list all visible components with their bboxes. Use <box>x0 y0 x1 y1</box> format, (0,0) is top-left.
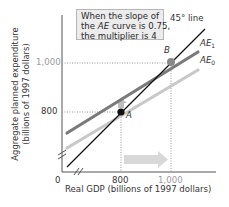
x-tick-1000: 1,000 <box>158 175 183 185</box>
x-tick-800: 800 <box>112 175 128 185</box>
y-tick-800: 800 <box>41 106 57 116</box>
callout-line-3: the multiplier is 4 <box>81 31 163 41</box>
callout-line-1: When the slope of <box>81 11 163 21</box>
y-tick-1000: 1,000 <box>36 57 61 67</box>
ae1-label: AE1 <box>200 38 215 49</box>
line-45-label: 45° line <box>170 13 203 23</box>
x-tick-0: 0 <box>55 175 60 185</box>
point-b <box>167 58 175 66</box>
y-axis-title: Aggregate planned expenditure (billions … <box>10 24 34 164</box>
x-axis-title: Real GDP (billions of 1997 dollars) <box>65 184 229 194</box>
point-a <box>117 108 124 115</box>
point-b-label: B <box>164 45 170 55</box>
ae1-line <box>67 52 198 133</box>
multiplier-callout: When the slope of the AE curve is 0.75, … <box>76 9 164 40</box>
line-45-degree <box>67 29 205 167</box>
ae0-label: AE0 <box>200 55 215 66</box>
gdp-change-arrow-icon <box>124 151 168 168</box>
ae0-line <box>67 70 198 148</box>
callout-line-2: the AE curve is 0.75, <box>81 21 163 31</box>
point-a-label: A <box>126 110 132 120</box>
